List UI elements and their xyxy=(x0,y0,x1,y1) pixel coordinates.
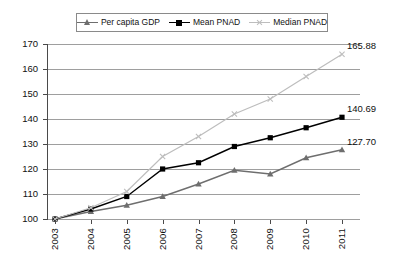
y-axis-tick-mark xyxy=(43,69,48,70)
data-label-per-capita-gdp: 127.70 xyxy=(347,136,376,147)
x-axis-tick-label: 2009 xyxy=(265,228,275,250)
x-axis-tick-label: 2008 xyxy=(229,228,239,250)
y-axis-tick-mark xyxy=(43,94,48,95)
gridline xyxy=(47,69,360,70)
y-axis-tick-mark xyxy=(43,194,48,195)
gridline xyxy=(47,119,360,120)
gridline xyxy=(47,94,360,95)
x-axis-tick-mark xyxy=(199,220,200,224)
x-axis-tick-label: 2004 xyxy=(86,228,96,250)
legend-label-mean-pnad: Mean PNAD xyxy=(193,18,240,27)
y-axis-tick-mark xyxy=(43,219,48,220)
gridline xyxy=(47,219,360,220)
x-axis-tick-label: 2011 xyxy=(337,228,347,249)
y-axis-tick-mark xyxy=(43,119,48,120)
y-axis-tick-label: 120 xyxy=(14,164,38,174)
gridline xyxy=(47,194,360,195)
x-axis-tick-label: 2010 xyxy=(301,228,311,250)
y-axis-tick-label: 170 xyxy=(14,39,38,49)
y-axis-tick-label: 150 xyxy=(14,89,38,99)
y-axis-tick-mark xyxy=(43,44,48,45)
y-axis-tick-mark xyxy=(43,144,48,145)
x-axis-tick-mark xyxy=(91,220,92,224)
x-axis-tick-mark xyxy=(342,220,343,224)
legend-item-mean-pnad: Mean PNAD xyxy=(169,18,240,27)
square-marker-icon xyxy=(169,18,190,27)
line-chart: Per capita GDP Mean PNAD Median PNAD 170… xyxy=(0,0,409,269)
y-axis-tick-label: 100 xyxy=(14,214,38,224)
y-axis-tick-label: 140 xyxy=(14,114,38,124)
legend-item-median-pnad: Median PNAD xyxy=(249,18,327,27)
y-axis-tick-label: 130 xyxy=(14,139,38,149)
legend-item-per-capita-gdp: Per capita GDP xyxy=(77,18,160,27)
x-axis-tick-mark xyxy=(163,220,164,224)
gridline xyxy=(47,169,360,170)
gridline xyxy=(47,44,360,45)
x-axis-tick-mark xyxy=(306,220,307,224)
chart-legend: Per capita GDP Mean PNAD Median PNAD xyxy=(76,13,328,32)
x-marker-icon xyxy=(249,18,270,27)
x-axis-tick-label: 2003 xyxy=(50,228,60,250)
x-axis-tick-label: 2005 xyxy=(122,228,132,250)
y-axis-tick-label: 110 xyxy=(14,189,38,199)
y-axis-tick-mark xyxy=(43,169,48,170)
y-axis-tick-label: 160 xyxy=(14,64,38,74)
plot-area xyxy=(47,44,360,219)
legend-label-per-capita-gdp: Per capita GDP xyxy=(101,18,160,27)
data-label-mean-pnad: 140.69 xyxy=(347,103,376,114)
x-axis-tick-label: 2007 xyxy=(194,228,204,250)
data-label-median-pnad: 165.88 xyxy=(347,40,376,51)
x-axis-tick-mark xyxy=(234,220,235,224)
gridline xyxy=(47,144,360,145)
x-axis-tick-mark xyxy=(55,220,56,224)
legend-label-median-pnad: Median PNAD xyxy=(273,18,327,27)
x-axis-tick-label: 2006 xyxy=(158,228,168,250)
triangle-marker-icon xyxy=(77,18,98,27)
x-axis-tick-mark xyxy=(127,220,128,224)
x-axis-tick-mark xyxy=(270,220,271,224)
